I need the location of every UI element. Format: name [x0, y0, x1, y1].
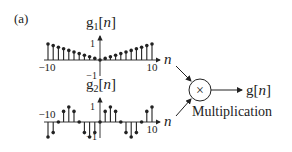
stem-marker [51, 131, 55, 135]
g1-stem-plot: g1[n]1−1−1010n [38, 14, 171, 81]
g1-title: g1[n] [86, 14, 116, 32]
stem-marker [83, 53, 87, 57]
stem-marker [109, 55, 113, 59]
stem-marker [98, 120, 102, 124]
stem-marker [103, 110, 107, 114]
stem-marker [51, 44, 55, 48]
stem-marker [109, 105, 113, 109]
stem-marker [150, 105, 154, 109]
panel-label: (a) [14, 11, 28, 26]
stem-marker [72, 110, 76, 114]
stem-marker [77, 52, 81, 56]
stem-marker [57, 120, 61, 124]
stem-marker [67, 49, 71, 53]
g1-xmax-label: 10 [147, 61, 159, 73]
stem-marker [62, 110, 66, 114]
stem-marker [62, 47, 66, 51]
stem-marker [145, 44, 149, 48]
stem-marker [150, 42, 154, 46]
stem-marker [114, 53, 118, 57]
g2-xmin-label: −10 [38, 108, 56, 120]
stem-marker [72, 50, 76, 54]
multiplier-node: × [189, 79, 211, 101]
g1-tick-pos: 1 [90, 38, 95, 49]
stem-marker [145, 110, 149, 114]
g2-tick-neg: −1 [86, 131, 97, 142]
stem-marker [124, 131, 128, 135]
stem-marker [140, 45, 144, 49]
stem-marker [88, 55, 92, 59]
stem-marker [103, 57, 107, 61]
stem-marker [119, 52, 123, 56]
stem-marker [98, 58, 102, 62]
g2-stem-plot: g2[n]1−1−1010n [38, 76, 171, 142]
stem-marker [124, 50, 128, 54]
stem-marker [93, 57, 97, 61]
stem-marker [77, 120, 81, 124]
g1-input-arrow [176, 66, 191, 81]
stem-marker [140, 120, 144, 124]
stem-marker [114, 110, 118, 114]
g1-xmin-label: −10 [38, 61, 56, 73]
signal-multiplication-diagram: (a) g1[n]1−1−1010n g2[n]1−1−1010n × g[n]… [0, 0, 292, 152]
stem-marker [119, 120, 123, 124]
stem-marker [135, 47, 139, 51]
stem-marker [129, 49, 133, 53]
g2-xmax-label: 10 [147, 123, 159, 135]
multiply-icon: × [196, 83, 204, 98]
stem-marker [46, 135, 50, 139]
g2-axis-label: n [164, 113, 172, 129]
g2-tick-pos: 1 [90, 101, 95, 112]
g2-title: g2[n] [86, 76, 116, 94]
g2-input-arrow [176, 99, 191, 116]
g1-axis-label: n [164, 51, 172, 67]
multiplication-caption: Multiplication [192, 104, 272, 119]
stem-marker [46, 42, 50, 46]
stem-marker [57, 45, 61, 49]
output-label: g[n] [246, 82, 271, 98]
stem-marker [67, 105, 71, 109]
stem-marker [135, 131, 139, 135]
stem-marker [129, 135, 133, 139]
